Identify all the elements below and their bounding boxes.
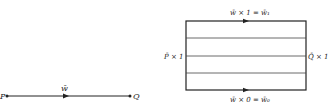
top-label: w̄ × 1 = w̄₁: [230, 9, 270, 17]
rectangle-diagram: w̄ × 1 = w̄₁ w̄ × 0 = w̄₀ P̄ × 1 Q̄ × 1: [163, 9, 329, 104]
left-label: P̄ × 1: [163, 52, 183, 61]
end-label: Q: [133, 92, 140, 101]
bottom-arrow-icon: [243, 88, 249, 92]
right-label: Q̄ × 1: [308, 52, 329, 61]
top-arrow-icon: [243, 19, 249, 23]
start-label: P: [0, 92, 6, 101]
homotopy-diagram: P Q w̄ w̄ × 1 = w̄₁ w̄ × 0 = w̄₀ P̄ × 1 …: [0, 0, 332, 108]
start-point: [6, 95, 9, 98]
homotopy-rectangle: [186, 21, 306, 90]
end-point: [129, 95, 132, 98]
path-label: w̄: [61, 84, 68, 93]
path-arrow-icon: [63, 94, 69, 99]
bottom-label: w̄ × 0 = w̄₀: [230, 96, 270, 104]
path-diagram: P Q w̄: [0, 84, 140, 101]
